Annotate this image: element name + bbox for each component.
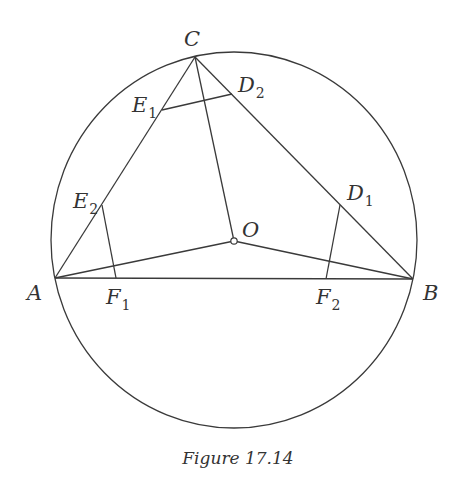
segment-AB (55, 278, 413, 279)
segment-OA (55, 241, 234, 278)
figure-caption: Figure 17.14 (181, 448, 293, 468)
label-O: O (242, 218, 259, 242)
label-C: C (184, 27, 200, 51)
label-B: B (422, 281, 438, 305)
label-A: A (25, 281, 42, 305)
segment-OC (195, 57, 234, 241)
label-E2: E2 (72, 189, 98, 217)
point-O-marker (231, 238, 237, 244)
segment-CA (55, 57, 195, 278)
label-D2: D2 (237, 73, 265, 101)
geometry-figure: C A B O D2 E1 E2 D1 F1 F2 Figure 17.14 (0, 0, 459, 489)
label-E1: E1 (131, 93, 157, 121)
label-D1: D1 (346, 181, 374, 209)
segment-D1F2 (326, 205, 340, 279)
segment-OB (234, 241, 413, 279)
label-F2: F2 (315, 285, 341, 313)
segment-BC (195, 57, 413, 279)
label-F1: F1 (105, 285, 131, 313)
segment-E1D2 (162, 94, 232, 110)
